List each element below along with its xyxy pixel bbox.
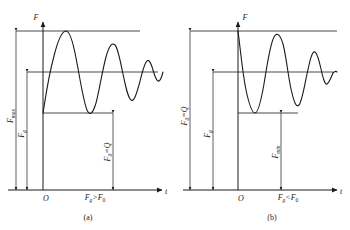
panel-a-caption: (a) [84, 213, 93, 222]
panel-b-label-fmin: Fmin [271, 145, 281, 159]
figure-container: Fmax Fg F0=Q F t O Fg>F0 (a) F0=Q Fg Fmi… [0, 0, 350, 230]
panel-a-y-axis-label: F [33, 13, 39, 22]
panel-b-y-axis-label: F [242, 13, 248, 22]
panel-a-x-axis-label: t [165, 187, 168, 196]
panel-a-label-fmax: Fmax [6, 108, 16, 124]
panel-b-label-f0eqq: F0=Q [180, 106, 190, 126]
panel-b-label-fg: Fg [203, 130, 213, 139]
panel-a: Fmax Fg F0=Q F t O Fg>F0 (a) [6, 13, 168, 222]
panel-b-x-axis-label: t [340, 187, 343, 196]
panel-a-origin-label: O [43, 194, 49, 203]
panel-a-label-f0eqq: F0=Q [103, 142, 113, 162]
panel-b: F0=Q Fg Fmin F t O Fg<F0 (b) [180, 13, 343, 222]
panel-b-origin-label: O [238, 194, 244, 203]
panel-a-label-fg: Fg [17, 130, 27, 139]
figure-svg: Fmax Fg F0=Q F t O Fg>F0 (a) F0=Q Fg Fmi… [0, 0, 350, 230]
panel-a-condition-label: Fg>F0 [84, 193, 106, 203]
panel-b-condition-label: Fg<F0 [277, 193, 299, 203]
panel-b-caption: (b) [267, 213, 277, 222]
